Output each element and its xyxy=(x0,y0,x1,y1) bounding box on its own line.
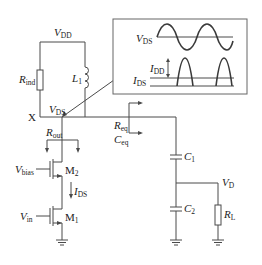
ground-icon xyxy=(212,240,224,245)
ceq-label: Ceq xyxy=(114,133,129,147)
node-x-label: X xyxy=(28,111,36,123)
rind-resistor xyxy=(37,70,43,90)
vbias-label: Vbias xyxy=(15,163,34,177)
vds-label: VDS xyxy=(49,103,65,117)
output-network xyxy=(170,155,224,245)
rl-resistor xyxy=(215,205,221,225)
rind-label: Rind xyxy=(18,73,36,87)
rout-label: Rout xyxy=(45,126,63,140)
m2-label: M2 xyxy=(65,164,79,178)
vin-label: Vin xyxy=(20,210,33,224)
ground-icon xyxy=(56,240,68,245)
l1-inductor xyxy=(85,67,89,88)
ground-icon xyxy=(170,240,182,245)
vd-label: VD xyxy=(222,176,235,190)
waveform-inset: VDS IDD IDS xyxy=(113,19,247,94)
circuit-diagram: VDS IDD IDS xyxy=(0,0,262,265)
c2-label: C2 xyxy=(184,202,195,216)
vdd-label: VDD xyxy=(54,26,72,40)
c1-label: C1 xyxy=(184,150,195,164)
req-ceq-marker xyxy=(129,101,143,135)
rl-label: RL xyxy=(223,208,236,222)
req-label: Req xyxy=(113,119,128,133)
ids-label: IDS xyxy=(73,185,87,199)
l1-label: L1 xyxy=(71,72,82,86)
m1-label: M1 xyxy=(65,211,79,225)
ids-arrow-icon xyxy=(69,194,73,199)
